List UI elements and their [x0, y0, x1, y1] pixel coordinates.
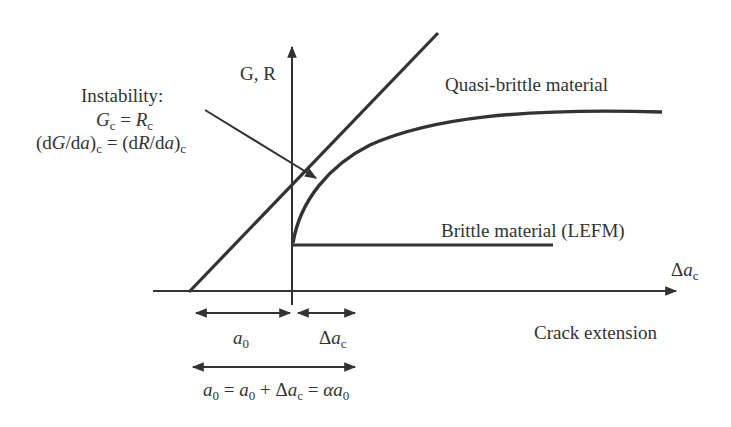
g-line: [189, 33, 438, 292]
zero-sub: 0: [243, 336, 250, 351]
eq-part: a: [239, 379, 249, 400]
eq2-part: /d: [150, 132, 165, 153]
eq1-r-sub: c: [147, 118, 153, 133]
a-var: a: [331, 327, 341, 348]
a-var: a: [233, 327, 243, 348]
c-sub: c: [693, 268, 699, 283]
eq2-part: R: [138, 132, 150, 153]
eq-part: =: [219, 379, 239, 400]
instability-eq1: Gc = Rc: [96, 110, 153, 129]
eq2-part: a: [164, 132, 174, 153]
eq1-g: G: [96, 109, 110, 130]
delta-symbol: Δ: [319, 327, 331, 348]
eq-part: a: [333, 379, 343, 400]
y-axis-label: G, R: [240, 64, 276, 83]
r-curve-diagram: [0, 0, 731, 427]
eq1-r: R: [136, 109, 148, 130]
c-sub: c: [341, 336, 347, 351]
eq-part: + Δ: [255, 379, 287, 400]
a-var: a: [683, 259, 693, 280]
length-equation: a0 = a0 + Δac = αa0: [203, 380, 349, 399]
eq2-part: = (d: [102, 132, 138, 153]
eq2-part: /d: [66, 132, 81, 153]
eq2-part: a: [80, 132, 90, 153]
delta-ac-label: Δac: [319, 328, 347, 347]
eq-part: 0: [343, 388, 350, 403]
eq-part: a: [288, 379, 298, 400]
eq-part: a: [203, 379, 213, 400]
eq1-equals: =: [116, 109, 136, 130]
a0-label: a0: [233, 328, 249, 347]
quasi-brittle-label: Quasi-brittle material: [445, 75, 608, 94]
brittle-label: Brittle material (LEFM): [441, 221, 625, 240]
eq2-part: G: [52, 132, 66, 153]
x-axis-end-label: Δac: [671, 260, 699, 279]
eq2-part: (d: [36, 132, 52, 153]
delta-symbol: Δ: [671, 259, 683, 280]
eq2-part: c: [180, 141, 186, 156]
instability-eq2: (dG/da)c = (dR/da)c: [36, 133, 186, 152]
instability-title: Instability:: [81, 86, 163, 105]
eq-part: α: [323, 379, 333, 400]
eq-part: =: [303, 379, 323, 400]
instability-arrow: [205, 110, 316, 178]
x-axis-label: Crack extension: [534, 323, 657, 342]
